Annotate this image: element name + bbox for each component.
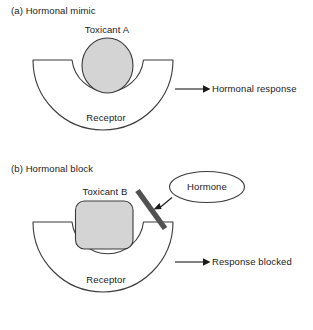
hormone-to-rod-arrow [154, 198, 173, 210]
response-blocked-label: Response blocked [212, 256, 292, 267]
toxicant-a-circle [82, 38, 133, 93]
toxicant-a-label: Toxicant A [85, 24, 129, 35]
toxicant-b-label: Toxicant B [83, 186, 128, 197]
panel-b-title: (b) Hormonal block [11, 163, 93, 174]
hormonal-response-label: Hormonal response [212, 83, 297, 94]
receptor-a-label: Receptor [86, 112, 125, 123]
receptor-b-label: Receptor [86, 274, 125, 285]
hormone-label: Hormone [187, 181, 227, 192]
hormonal-response-arrow [175, 85, 211, 92]
response-blocked-arrow [175, 258, 211, 265]
panel-a-title: (a) Hormonal mimic [11, 5, 96, 16]
figure-hormonal-mimic-and-block: (a) Hormonal mimic Toxicant A Receptor H… [0, 0, 313, 330]
toxicant-b-square [76, 201, 134, 249]
